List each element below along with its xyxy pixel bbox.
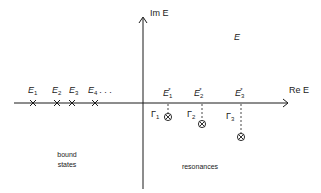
label-index: 1 [34, 90, 37, 96]
ellipsis: . . . [99, 85, 112, 95]
real-axis-label: Re E [289, 85, 309, 95]
caption-line: states [52, 160, 82, 170]
width-label-3: Γ3 [226, 111, 234, 124]
gamma-index: 2 [192, 114, 195, 120]
bound-states-caption: bound states [52, 150, 82, 170]
label-index: 3 [75, 90, 78, 96]
label-index: 4 [94, 90, 97, 96]
imaginary-axis-label: Im E [150, 8, 169, 18]
gamma-index: 1 [156, 114, 159, 120]
resonances-caption: resonances [175, 162, 225, 172]
label-index: 3 [241, 93, 244, 99]
bound-state-label-2: E2 [52, 85, 61, 98]
resonance-label-3: E3* [235, 85, 243, 101]
label-star: * [199, 87, 201, 93]
label-index: 2 [58, 90, 61, 96]
resonance-label-1: E1* [163, 85, 171, 101]
width-label-2: Γ2 [187, 109, 195, 122]
bound-state-label-4: E4. . . [88, 85, 112, 98]
label-index: 2 [200, 93, 203, 99]
complex-plane-label: E [234, 32, 240, 42]
circled-cross-icon [164, 113, 171, 120]
bound-state-label-3: E3 [69, 85, 78, 98]
gamma-index: 3 [231, 116, 234, 122]
width-label-1: Γ1 [151, 109, 159, 122]
imaginary-axis-label-text: Im E [150, 8, 169, 18]
circled-cross-icon [198, 120, 205, 127]
caption-line: bound [52, 150, 82, 160]
circled-cross-icon [237, 133, 244, 140]
label-star: * [240, 87, 242, 93]
resonance-label-2: E2* [194, 85, 202, 101]
label-index: 1 [169, 93, 172, 99]
label-star: * [168, 87, 170, 93]
diagram-canvas [0, 0, 321, 193]
bound-state-label-1: E1 [28, 85, 37, 98]
